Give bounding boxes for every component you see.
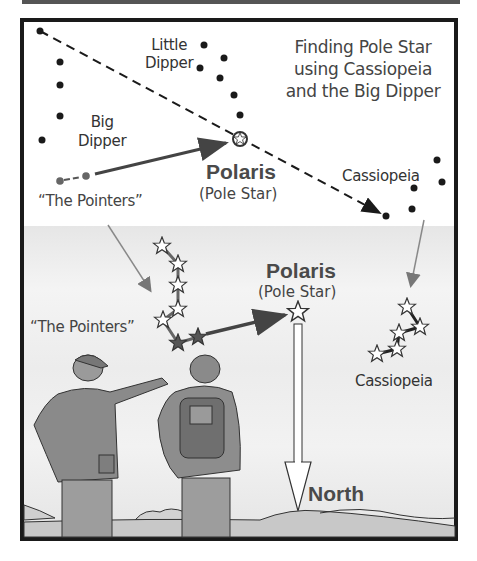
lower-polaris-label: Polaris (266, 259, 336, 283)
pointers-guide-arrow (108, 225, 150, 290)
little-dipper-label-line2: Dipper (145, 54, 193, 72)
diagram-title: Finding Pole Star using Cassiopeia and t… (268, 36, 458, 102)
upper-polaris-marker (233, 132, 247, 146)
big-dipper-label: Big Dipper (78, 113, 126, 151)
upper-polaris-label: Polaris (206, 160, 276, 184)
title-line-1: Finding Pole Star (268, 36, 458, 58)
cassiopeia-guide-arrow (411, 220, 424, 285)
big-dipper-label-line1: Big (78, 113, 126, 132)
upper-cassiopeia-dots (383, 157, 446, 220)
lower-big-dipper-constellation (153, 237, 206, 350)
lower-polaris-star (288, 301, 309, 321)
lower-cassiopeia-constellation (368, 298, 428, 361)
lower-cassiopeia-label: Cassiopeia (355, 372, 433, 390)
upper-cassiopeia-label: Cassiopeia (342, 167, 420, 185)
title-line-2: using Cassiopeia (268, 58, 458, 80)
big-dipper-label-line2: Dipper (78, 132, 126, 151)
upper-big-dipper-dots (37, 28, 64, 144)
upper-little-dipper-dots (197, 42, 244, 119)
little-dipper-label: Little Dipper (145, 36, 193, 72)
upper-pointers-label: “The Pointers” (38, 192, 142, 210)
lower-pole-star-label: (Pole Star) (258, 283, 336, 301)
pointing-man-figure (34, 355, 168, 537)
title-line-3: and the Big Dipper (268, 80, 458, 102)
lower-pointer-arrow (206, 315, 285, 334)
north-label: North (308, 482, 364, 506)
upper-pole-star-label: (Pole Star) (199, 185, 277, 203)
lower-pointers-label: “The Pointers” (30, 318, 134, 336)
little-dipper-label-line1: Little (145, 36, 193, 54)
